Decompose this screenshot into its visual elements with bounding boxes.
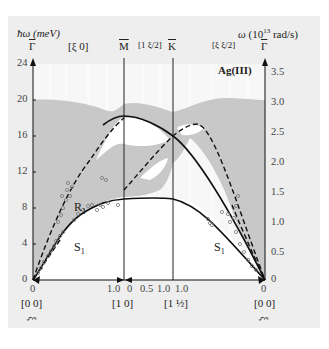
right-tick-2.0: 2.0 [271,156,284,167]
direction-1-half-xi-label: [1 ξ/2] [138,40,162,50]
left-tick-12: 12 [17,165,28,176]
left-tick-20: 20 [17,93,28,104]
right-tick-2.5: 2.5 [271,126,284,137]
left-tick-8: 8 [22,201,27,212]
xi-left-label: ξ [27,316,38,320]
direction-xi-half-xi-label: [ξ ξ/2] [212,40,235,50]
k-point-label: K [168,40,176,52]
y-axis-left-label: ħω (meV) [17,27,60,39]
sample-label: Ag(III) [218,64,252,76]
bottom-tick-0-right: 0 [261,283,266,294]
left-axis-arrow [30,58,36,66]
bottom-label-00-right: [0 0] [254,297,275,309]
xi-right-label: ξ [259,316,270,320]
right-tick-0: 0 [271,273,276,284]
right-axis-arrow [262,58,268,66]
left-tick-4: 4 [22,237,27,248]
left-tick-0: 0 [22,273,27,284]
s1-right-label: S1 [214,240,225,256]
bottom-tick-0.5: 0.5 [140,283,153,294]
gamma-point-right-label: Γ [261,40,267,52]
bottom-tick-1.0-k-left: 1.0 [157,283,170,294]
y-axis-right-label: ω ω (10(1013 rad/s) [238,27,298,40]
gamma-point-left-label: Γ [29,40,35,52]
bottom-tick-0-left: 0 [30,283,35,294]
m-point-label: M [119,40,129,52]
bottom-label-10: [1 0] [112,297,133,309]
right-tick-1.5: 1.5 [271,186,284,197]
left-tick-24: 24 [17,57,28,68]
right-tick-3.5: 3.5 [271,66,284,77]
right-tick-1.0: 1.0 [271,216,284,227]
right-tick-3.0: 3.0 [271,96,284,107]
right-tick-0.5: 0.5 [271,246,284,257]
left-tick-16: 16 [17,129,28,140]
bottom-label-1-half: [1 ½] [164,297,188,309]
bottom-tick-1.0-k-right: 1.0 [175,283,188,294]
bottom-label-00-left: [0 0] [21,297,42,309]
s1-left-label: S1 [74,240,85,256]
r1-label: R1 [74,200,86,216]
direction-xi-0-label: [ξ 0] [68,40,88,52]
bottom-tick-1.0-m: 1.0 [107,283,120,294]
bottom-tick-0-m: 0 [127,283,132,294]
